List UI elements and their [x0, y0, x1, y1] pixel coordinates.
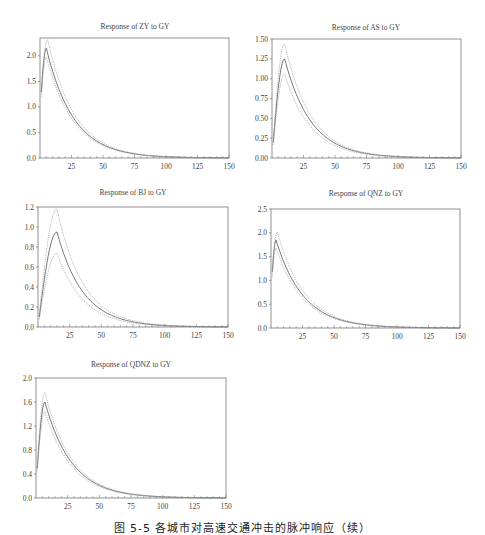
- svg-text:1.25: 1.25: [255, 54, 268, 63]
- svg-text:75: 75: [131, 162, 139, 170]
- svg-text:0.5: 0.5: [258, 300, 268, 309]
- svg-text:150: 150: [454, 332, 466, 340]
- svg-text:1.00: 1.00: [255, 74, 268, 83]
- svg-text:25: 25: [68, 162, 76, 170]
- svg-text:25: 25: [66, 331, 74, 340]
- svg-text:100: 100: [391, 332, 403, 340]
- svg-text:2.0: 2.0: [23, 374, 33, 383]
- svg-text:125: 125: [192, 162, 204, 170]
- svg-text:125: 125: [191, 331, 203, 340]
- svg-text:0.4: 0.4: [25, 283, 35, 292]
- svg-text:50: 50: [98, 331, 106, 340]
- plot-area: 0.00.51.01.52.0255075100125150: [0, 0, 240, 170]
- chart-bj: Response of BJ to GY 0.00.20.40.60.81.01…: [0, 170, 240, 340]
- svg-text:0.4: 0.4: [23, 470, 33, 479]
- svg-text:1.5: 1.5: [258, 252, 268, 261]
- svg-text:50: 50: [99, 162, 107, 170]
- svg-text:0.75: 0.75: [255, 94, 268, 103]
- svg-text:25: 25: [64, 502, 72, 511]
- svg-text:25: 25: [299, 332, 307, 340]
- svg-text:75: 75: [129, 331, 137, 340]
- svg-text:75: 75: [363, 162, 371, 170]
- svg-text:2.5: 2.5: [258, 205, 268, 214]
- plot-area: 0.000.250.500.751.001.251.50255075100125…: [240, 0, 485, 170]
- svg-text:0.0: 0.0: [23, 494, 33, 503]
- svg-text:150: 150: [220, 502, 232, 511]
- svg-text:50: 50: [96, 502, 104, 511]
- chart-qdnz: Response of QDNZ to GY 0.00.40.81.21.62.…: [0, 340, 240, 520]
- svg-text:125: 125: [424, 162, 436, 170]
- svg-text:0.5: 0.5: [27, 128, 37, 137]
- svg-text:1.2: 1.2: [23, 422, 33, 431]
- svg-text:50: 50: [330, 332, 338, 340]
- svg-text:125: 125: [189, 502, 201, 511]
- svg-text:0.00: 0.00: [255, 154, 268, 163]
- svg-text:75: 75: [362, 332, 370, 340]
- svg-text:100: 100: [159, 331, 171, 340]
- svg-text:150: 150: [222, 331, 234, 340]
- svg-text:0.8: 0.8: [23, 446, 33, 455]
- svg-text:0.0: 0.0: [27, 154, 37, 163]
- svg-text:25: 25: [300, 162, 308, 170]
- svg-text:0.25: 0.25: [255, 134, 268, 143]
- svg-text:50: 50: [331, 162, 339, 170]
- plot-area: 0.00.20.40.60.81.01.2255075100125150: [0, 170, 240, 340]
- svg-text:1.6: 1.6: [23, 398, 33, 407]
- svg-text:100: 100: [392, 162, 404, 170]
- svg-text:2.0: 2.0: [258, 228, 268, 237]
- svg-text:150: 150: [455, 162, 467, 170]
- svg-text:0.0: 0.0: [25, 323, 35, 332]
- figure-caption: 图 5-5 各城市对高速交通冲击的脉冲响应（续）: [0, 519, 485, 535]
- svg-text:100: 100: [160, 162, 172, 170]
- svg-text:100: 100: [157, 502, 169, 511]
- plot-area: 0.00.40.81.21.62.0255075100125150: [0, 340, 240, 520]
- svg-text:0.8: 0.8: [25, 243, 35, 252]
- svg-text:1.2: 1.2: [25, 203, 35, 212]
- svg-text:2.0: 2.0: [27, 51, 37, 60]
- svg-text:1.5: 1.5: [27, 77, 37, 86]
- svg-text:0.2: 0.2: [25, 303, 35, 312]
- svg-text:0.0: 0.0: [258, 324, 268, 333]
- svg-text:75: 75: [127, 502, 135, 511]
- svg-text:0.50: 0.50: [255, 114, 268, 123]
- svg-text:0.6: 0.6: [25, 263, 35, 272]
- svg-text:1.0: 1.0: [27, 102, 37, 111]
- svg-text:125: 125: [423, 332, 435, 340]
- chart-zy: Response of ZY to GY 0.00.51.01.52.02550…: [0, 0, 240, 170]
- plot-area: 0.00.51.01.52.02.5255075100125150: [240, 170, 485, 340]
- svg-text:1.0: 1.0: [25, 223, 35, 232]
- chart-qnz: Response of QNZ to GY 0.00.51.01.52.02.5…: [240, 170, 485, 340]
- svg-text:150: 150: [223, 162, 235, 170]
- svg-text:1.0: 1.0: [258, 276, 268, 285]
- chart-as: Response of AS to GY 0.000.250.500.751.0…: [240, 0, 485, 170]
- svg-text:1.50: 1.50: [255, 35, 268, 44]
